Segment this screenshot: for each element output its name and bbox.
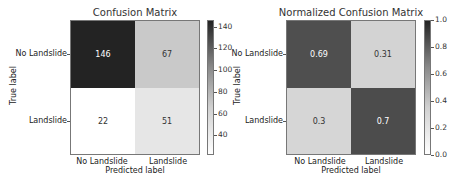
colorbar-tick-label: 80	[218, 87, 228, 96]
colorbar-tick-mark	[214, 48, 217, 49]
colorbar-tick-label: 0.4	[435, 96, 447, 105]
colorbar-tick-label: 0.8	[435, 42, 447, 51]
cell-true-landslide-pred-landslide: 51	[135, 88, 199, 154]
colorbar-tick-mark	[214, 114, 217, 115]
colorbar	[424, 20, 431, 155]
y-tick-label: Landslide	[29, 116, 67, 125]
x-tick-label: Landslide	[352, 157, 416, 166]
chart-title: Normalized Confusion Matrix	[276, 7, 426, 18]
y-axis-label: True label	[9, 61, 18, 111]
y-tick-mark	[67, 54, 70, 55]
cell-true-no-landslide-pred-no-landslide: 0.69	[287, 21, 351, 88]
cell-true-no-landslide-pred-no-landslide: 146	[71, 21, 135, 88]
x-tick-label: No Landslide	[290, 157, 350, 166]
x-axis-label: Predicted label	[70, 166, 200, 175]
colorbar-tick-label: 40	[218, 130, 228, 139]
colorbar-tick-mark	[431, 101, 434, 102]
colorbar-tick-mark	[431, 74, 434, 75]
colorbar-tick-mark	[214, 27, 217, 28]
colorbar-tick-label: 140	[218, 22, 232, 31]
cell-true-no-landslide-pred-landslide: 0.31	[351, 21, 415, 88]
y-tick-mark	[67, 121, 70, 122]
cell-true-landslide-pred-no-landslide: 0.3	[287, 88, 351, 154]
colorbar	[207, 20, 214, 155]
colorbar-tick-label: 60	[218, 109, 228, 118]
y-tick-mark	[283, 121, 286, 122]
x-tick-label: Landslide	[136, 157, 200, 166]
colorbar-tick-mark	[431, 47, 434, 48]
colorbar-tick-mark	[431, 128, 434, 129]
colorbar-tick-label: 0.6	[435, 69, 447, 78]
colorbar-tick-label: 100	[218, 65, 232, 74]
colorbar-tick-label: 120	[218, 43, 232, 52]
chart-title: Confusion Matrix	[70, 7, 200, 18]
colorbar-tick-label: 0.2	[435, 123, 447, 132]
y-tick-label: No Landslide	[15, 49, 67, 58]
colorbar-tick-label: 0.0	[435, 150, 447, 159]
colorbar-tick-label: 1.0	[435, 15, 447, 24]
x-axis-label: Predicted label	[286, 166, 416, 175]
colorbar-tick-mark	[214, 135, 217, 136]
cell-true-landslide-pred-no-landslide: 22	[71, 88, 135, 154]
y-tick-label: No Landslide	[231, 49, 283, 58]
y-tick-label: Landslide	[245, 116, 283, 125]
cell-true-no-landslide-pred-landslide: 67	[135, 21, 199, 88]
colorbar-tick-mark	[214, 92, 217, 93]
y-axis-label: True label	[233, 61, 242, 111]
heatmap-grid: 146 67 22 51	[70, 20, 200, 155]
cell-true-landslide-pred-landslide: 0.7	[351, 88, 415, 154]
colorbar-tick-mark	[214, 70, 217, 71]
y-tick-mark	[283, 54, 286, 55]
colorbar-tick-mark	[431, 155, 434, 156]
x-tick-label: No Landslide	[72, 157, 132, 166]
colorbar-tick-mark	[431, 20, 434, 21]
heatmap-grid: 0.69 0.31 0.3 0.7	[286, 20, 416, 155]
